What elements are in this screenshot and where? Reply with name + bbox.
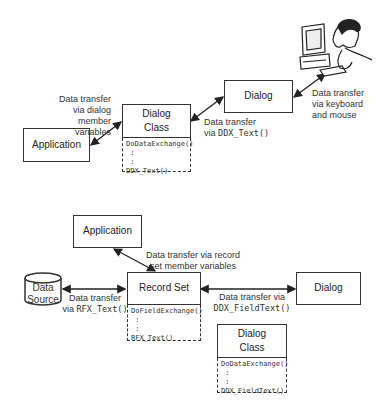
dialog-class-methods: DoDataExchange() : :DDX_Text() (122, 138, 191, 172)
edge-label-code: RFX_Text() (76, 304, 127, 314)
dialog-class-label: Dialog Class (142, 107, 170, 136)
method-name: DDX_FieldText() (221, 387, 286, 396)
edge-label-keyboard-mouse: Data transfer via keyboard and mouse (312, 88, 378, 121)
method-name: DoDataExchange() (221, 360, 286, 369)
edge-label-record-set-members: Data transfer via record set member vari… (128, 250, 258, 272)
method-ellipsis: : (126, 158, 190, 167)
method-ellipsis: : (131, 316, 200, 325)
method-name: DDX_Text() (126, 167, 190, 176)
dialog-class-box-bottom: Dialog Class (217, 324, 287, 358)
method-name: RFX_Text() (131, 334, 200, 343)
method-ellipsis: : (131, 325, 200, 334)
dialog-class-label: Dialog Class (238, 327, 266, 356)
edge-label-text: Data transfer via (219, 292, 285, 302)
application-label: Application (83, 224, 132, 239)
edge-label-code: DDX_Text() (218, 128, 269, 138)
connector-arrows (0, 0, 379, 414)
method-name: DoDataExchange() (126, 140, 190, 149)
record-set-label: Record Set (139, 281, 189, 296)
record-set-methods: DoFieldExchange() : :RFX_Text() (127, 305, 201, 341)
edge-label-code: DDX_FieldText() (214, 303, 291, 313)
application-box-bottom: Application (73, 215, 142, 248)
method-ellipsis: : (221, 369, 286, 378)
dialog-class-box: Dialog Class (122, 104, 191, 138)
method-ellipsis: : (126, 149, 190, 158)
method-name: DoFieldExchange() (131, 307, 200, 316)
dialog-box: Dialog (224, 80, 293, 113)
data-source-label: Data Source (25, 282, 61, 306)
edge-label-rfx-text: Data transfer via RFX_Text() (62, 293, 128, 315)
application-label: Application (32, 138, 81, 153)
method-ellipsis: : (221, 378, 286, 387)
edge-label-ddx-text: Data transfer via DDX_Text() (204, 117, 294, 139)
dialog-class-methods-bottom: DoDataExchange() : :DDX_FieldText() (217, 358, 287, 393)
edge-label-member-variables: Data transfer via dialog member variable… (55, 94, 111, 138)
dialog-label: Dialog (314, 281, 342, 296)
record-set-box: Record Set (127, 272, 201, 305)
edge-label-ddx-fieldtext: Data transfer via DDX_FieldText() (212, 292, 292, 314)
dialog-label: Dialog (244, 89, 272, 104)
dialog-box-bottom: Dialog (296, 272, 361, 305)
person-at-computer-icon (300, 20, 372, 76)
